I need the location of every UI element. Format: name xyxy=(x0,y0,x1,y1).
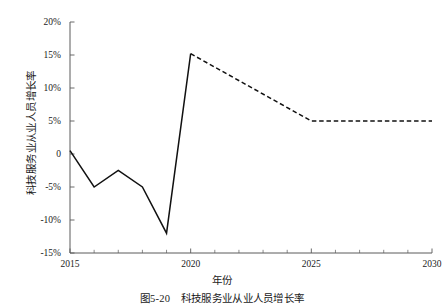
y-tick-label: 15% xyxy=(44,50,62,60)
y-tick-label: 0 xyxy=(56,149,61,159)
figure-caption: 图5-20 科技服务业从业人员增长率 xyxy=(0,290,444,305)
x-tick-label: 2030 xyxy=(423,259,442,269)
y-tick-label: -10% xyxy=(40,215,61,225)
y-tick-label: -5% xyxy=(45,182,61,192)
axis-tick-marks xyxy=(70,22,432,253)
x-tick-label: 2025 xyxy=(302,259,321,269)
y-tick-label: 10% xyxy=(44,83,62,93)
y-axis-title: 科技服务业从业人员增长率 xyxy=(23,18,38,248)
x-axis-title: 年份 xyxy=(0,272,444,287)
axis-lines xyxy=(70,22,432,253)
x-axis-tick-labels: 2015202020252030 xyxy=(61,259,442,269)
y-tick-label: 20% xyxy=(44,17,62,27)
y-axis-tick-labels: -15%-10%-5%05%10%15%20% xyxy=(40,17,61,258)
series-forecast-line xyxy=(191,54,432,121)
y-tick-label: -15% xyxy=(40,248,61,258)
series-historical-line xyxy=(70,54,191,234)
x-tick-label: 2020 xyxy=(181,259,200,269)
y-tick-label: 5% xyxy=(48,116,61,126)
x-tick-label: 2015 xyxy=(61,259,80,269)
